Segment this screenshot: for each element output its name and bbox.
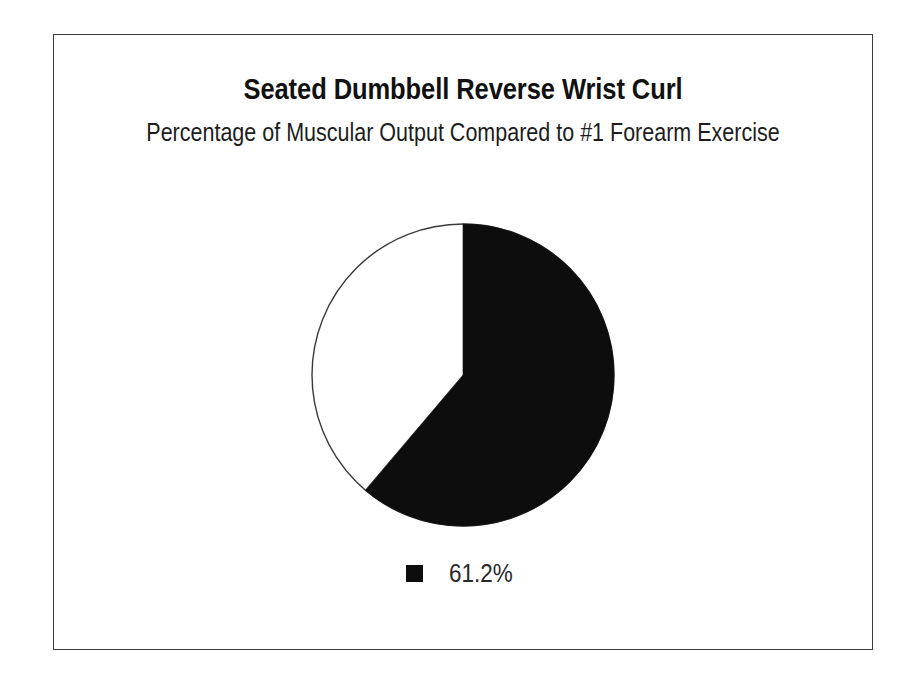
page-title: Seated Dumbbell Reverse Wrist Curl: [103, 73, 823, 106]
legend-swatch-icon: [406, 565, 423, 582]
pie-chart: [311, 223, 615, 527]
chart-subtitle: Percentage of Muscular Output Compared t…: [111, 118, 814, 147]
legend-item-label: 61.2%: [449, 559, 513, 588]
chart-legend: 61.2%: [54, 559, 872, 588]
chart-frame: Seated Dumbbell Reverse Wrist Curl Perce…: [53, 34, 873, 650]
legend-item: 61.2%: [406, 559, 520, 588]
